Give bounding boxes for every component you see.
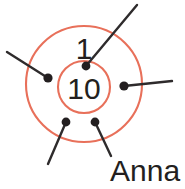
outer-ring-value-label: 1 (76, 32, 93, 65)
annotation-name-label: Anna (110, 154, 180, 187)
node-dot-bottom-right (91, 118, 100, 127)
node-dot-bottom-left (62, 118, 71, 127)
concentric-circle-diagram: 1 10 Anna (0, 0, 185, 189)
leader-line-bottom-right (95, 122, 111, 156)
leader-line-bottom-left (48, 122, 66, 164)
inner-ring-value-label: 10 (67, 72, 100, 105)
leader-line-top-center (86, 5, 137, 66)
leader-line-right (124, 81, 172, 86)
diagram-canvas: 1 10 Anna (0, 0, 185, 189)
node-dot-right (119, 81, 128, 90)
node-dot-left (43, 73, 52, 82)
